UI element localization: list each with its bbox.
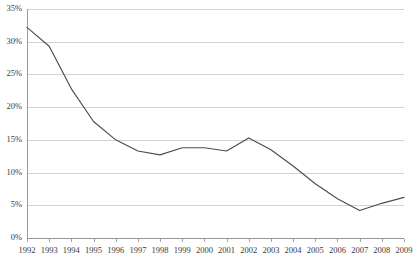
x-axis-tick-label: 1995 [85, 245, 102, 255]
x-axis-tick-label: 1993 [41, 245, 58, 255]
x-axis-tick-label: 2006 [329, 245, 346, 255]
x-axis-tick-label: 2000 [196, 245, 213, 255]
y-axis-tick-label: 15% [6, 134, 22, 144]
series-group [27, 27, 404, 210]
y-axis-tick-label: 10% [6, 167, 22, 177]
x-axis-tick-label: 2003 [262, 245, 279, 255]
x-axis-tick-label: 1994 [63, 245, 81, 255]
x-axis-tick-label: 1996 [107, 245, 124, 255]
y-axis-tick-label: 35% [6, 3, 22, 13]
y-axis-labels-group: 0%5%10%15%20%25%30%35% [6, 3, 22, 242]
x-axis-tick-label: 1999 [174, 245, 191, 255]
series-line-0 [27, 27, 404, 210]
x-axis-tick-label: 2001 [218, 245, 235, 255]
x-axis-tick-label: 2008 [373, 245, 390, 255]
line-chart: 0%5%10%15%20%25%30%35% 19921993199419951… [0, 0, 415, 261]
x-axis-tick-label: 2007 [351, 245, 368, 255]
y-axis-tick-label: 30% [6, 36, 22, 46]
y-axis-tick-label: 0% [11, 232, 22, 242]
x-axis-tick-label: 1998 [152, 245, 169, 255]
x-axis-tick-label: 1997 [129, 245, 146, 255]
x-axis-tick-label: 1992 [19, 245, 36, 255]
x-axis-tick-label: 2009 [396, 245, 413, 255]
x-axis-tick-label: 2005 [307, 245, 324, 255]
x-axis-labels-group: 1992199319941995199619971998199920002001… [19, 245, 413, 255]
x-axis-tick-label: 2004 [285, 245, 303, 255]
chart-canvas: 0%5%10%15%20%25%30%35% 19921993199419951… [0, 0, 415, 261]
x-axis-tick-label: 2002 [240, 245, 257, 255]
y-axis-tick-label: 5% [11, 199, 22, 209]
y-axis-tick-label: 20% [6, 101, 22, 111]
y-axis-tick-label: 25% [6, 68, 22, 78]
